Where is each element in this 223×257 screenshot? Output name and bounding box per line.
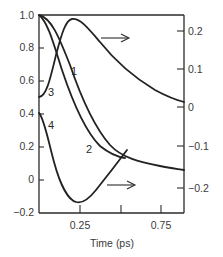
y-right-label: −0.2: [188, 182, 209, 194]
curve-label-3: 3: [48, 86, 54, 98]
right-axis-ticks: [177, 31, 184, 188]
right-axis-labels: 0.2 0.1 0 −0.1 −0.2: [188, 25, 209, 194]
x-tick-label: 0.25: [70, 219, 91, 231]
y-right-label: 0: [188, 101, 194, 113]
y-right-label: 0.1: [188, 63, 203, 75]
arrow-right-icon: [101, 34, 129, 42]
y-left-label: 0.8: [19, 41, 34, 53]
y-right-label: −0.1: [188, 140, 209, 152]
y-left-label: 0.4: [19, 107, 34, 119]
x-axis-ticks: [80, 205, 161, 213]
chart: 1.0 0.8 0.6 0.4 0.2 0 −0.2 0.2 0.1 0 −0.…: [0, 0, 223, 257]
y-left-label: 0.6: [19, 74, 34, 86]
curve-label-1: 1: [71, 65, 77, 77]
curve-label-4: 4: [48, 119, 54, 131]
curve-3: [39, 19, 184, 102]
y-left-label: 0: [28, 173, 34, 185]
x-axis-labels: 0.25 0.75: [70, 219, 172, 231]
y-left-label: 0.2: [19, 140, 34, 152]
y-left-label: −0.2: [13, 206, 34, 218]
y-right-label: 0.2: [188, 25, 203, 37]
x-axis-title: Time (ps): [90, 237, 134, 249]
left-axis-labels: 1.0 0.8 0.6 0.4 0.2 0 −0.2: [13, 9, 34, 218]
y-left-label: 1.0: [19, 9, 34, 21]
arrow-right-icon: [107, 181, 135, 189]
x-tick-label: 0.75: [151, 219, 172, 231]
curve-label-2: 2: [86, 143, 92, 155]
